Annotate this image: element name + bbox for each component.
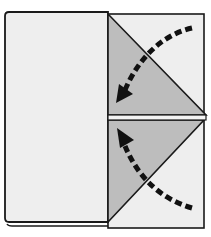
center-crease xyxy=(108,115,206,120)
left-panel-bottom-edge xyxy=(7,224,108,226)
left-panel xyxy=(5,12,108,222)
origami-diagram: Fold the top and bottom right corners in… xyxy=(0,0,211,237)
